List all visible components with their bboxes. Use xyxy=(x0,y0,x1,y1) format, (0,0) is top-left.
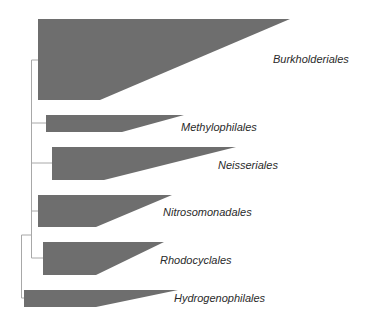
root-branch xyxy=(22,235,32,298)
phylogenetic-tree: Burkholderiales Methylophilales Neisseri… xyxy=(0,0,365,318)
clade-wedge-neisseriales xyxy=(52,147,236,180)
clade-wedge-burkholderiales xyxy=(38,19,290,100)
clade-wedge-methylophilales xyxy=(46,115,184,132)
clade-wedge-rhodocyclales xyxy=(43,242,164,275)
label-methylophilales: Methylophilales xyxy=(181,122,257,133)
label-nitrosomonadales: Nitrosomonadales xyxy=(163,207,252,218)
tree-graphic xyxy=(0,0,365,318)
label-rhodocyclales: Rhodocyclales xyxy=(160,255,232,266)
label-hydrogenophilales: Hydrogenophilales xyxy=(174,293,265,304)
clade-wedge-nitrosomonadales xyxy=(38,195,172,227)
label-burkholderiales: Burkholderiales xyxy=(273,54,349,65)
label-neisseriales: Neisseriales xyxy=(218,160,278,171)
clade-wedge-hydrogenophilales xyxy=(24,290,178,307)
